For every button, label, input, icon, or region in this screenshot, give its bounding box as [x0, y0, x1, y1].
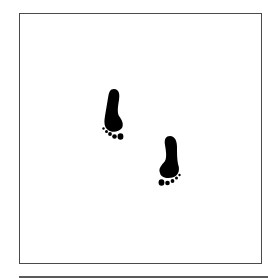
footprint-icon-left — [102, 89, 123, 140]
footprint-icon-right — [159, 136, 181, 186]
footprints-illustration — [0, 0, 268, 278]
